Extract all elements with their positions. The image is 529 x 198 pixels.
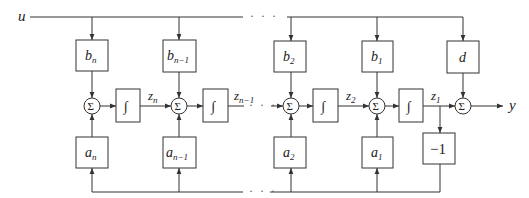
- integrator-1: [399, 89, 423, 122]
- state-label-z-n: zn: [147, 88, 158, 105]
- output-label-y: y: [507, 97, 516, 113]
- svg-text:Σ: Σ: [373, 100, 379, 112]
- state-label-z-1: z1: [430, 88, 441, 105]
- integrator-n: [116, 89, 140, 122]
- input-bus: · · ·: [30, 9, 463, 41]
- block-diagram: u · · · bn Σ ∫ zn an bn−1 Σ ∫: [0, 0, 529, 198]
- input-label-u: u: [18, 8, 26, 24]
- svg-text:Σ: Σ: [459, 100, 465, 112]
- stage-n: bn Σ ∫ zn an: [76, 40, 171, 192]
- middle-ellipsis: · · ·: [249, 98, 277, 112]
- stage-n-minus-1: bn−1 Σ ∫ zn−1 an−1: [163, 40, 254, 192]
- integrator-2: [313, 89, 338, 122]
- stage-2: b2 Σ ∫ z2 a2: [274, 41, 369, 192]
- output-section: d Σ y: [447, 41, 516, 114]
- svg-text:d: d: [459, 50, 467, 65]
- integrator-n-minus-1: [203, 89, 228, 122]
- svg-text:Σ: Σ: [175, 100, 181, 112]
- stage-1: b1 Σ ∫ z1 a1: [362, 41, 455, 192]
- bottom-ellipsis: · · ·: [249, 184, 277, 198]
- svg-text:Σ: Σ: [287, 100, 293, 112]
- state-label-z-2: z2: [345, 88, 356, 105]
- top-ellipsis: · · ·: [250, 9, 278, 23]
- svg-text:Σ: Σ: [88, 100, 94, 112]
- svg-text:−1: −1: [430, 141, 446, 157]
